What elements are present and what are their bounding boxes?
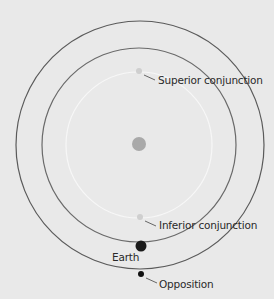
inferior-conjunction-planet [137,214,143,220]
inferior-leader-line [145,221,156,226]
superior-leader-line [144,75,155,80]
opposition-label: Opposition [159,278,214,290]
sun [132,137,146,151]
inferior-conjunction-label: Inferior conjunction [159,219,257,231]
earth-label: Earth [112,251,139,263]
earth-planet [136,241,147,252]
superior-conjunction-planet [136,68,142,74]
opposition-planet [138,271,144,277]
opposition-leader-line [146,278,157,283]
superior-conjunction-label: Superior conjunction [158,74,263,86]
